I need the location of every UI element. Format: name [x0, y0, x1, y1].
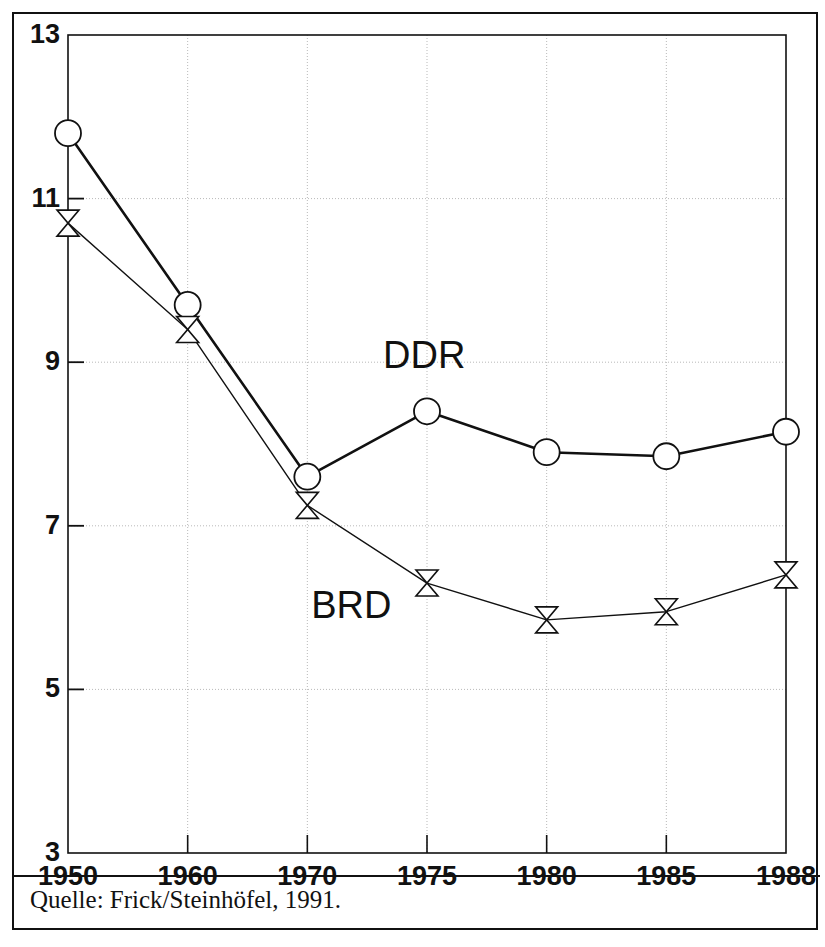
gridlines: [68, 35, 786, 853]
series-annotation-brd: BRD: [311, 586, 391, 624]
line-chart: [14, 14, 820, 932]
y-tick-label: 13: [16, 21, 60, 48]
series-annotation-ddr: DDR: [383, 336, 465, 374]
y-tick-label: 9: [16, 348, 60, 375]
y-tick-label: 5: [16, 675, 60, 702]
chart-canvas: 35791113 1950196019701975198019851988 DD…: [14, 14, 820, 932]
source-divider: [14, 875, 820, 877]
y-tick-label: 7: [16, 512, 60, 539]
y-tick-label: 11: [16, 185, 60, 212]
chart-figure-frame: 35791113 1950196019701975198019851988 DD…: [12, 12, 818, 930]
source-caption: Quelle: Frick/Steinhöfel, 1991.: [30, 886, 341, 914]
